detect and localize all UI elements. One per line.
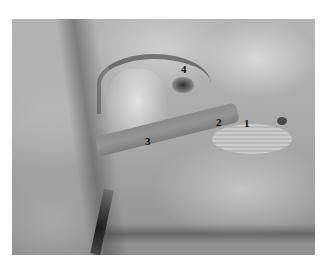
dark-spot [277,117,287,125]
striated-bundle [212,124,292,154]
anatomical-photo [12,19,315,255]
label-3: 3 [145,136,151,147]
label-1: 1 [244,118,250,129]
dark-pocket [172,77,194,93]
label-4: 4 [181,64,187,75]
bottom-shadow [102,224,315,244]
label-2: 2 [216,117,222,128]
